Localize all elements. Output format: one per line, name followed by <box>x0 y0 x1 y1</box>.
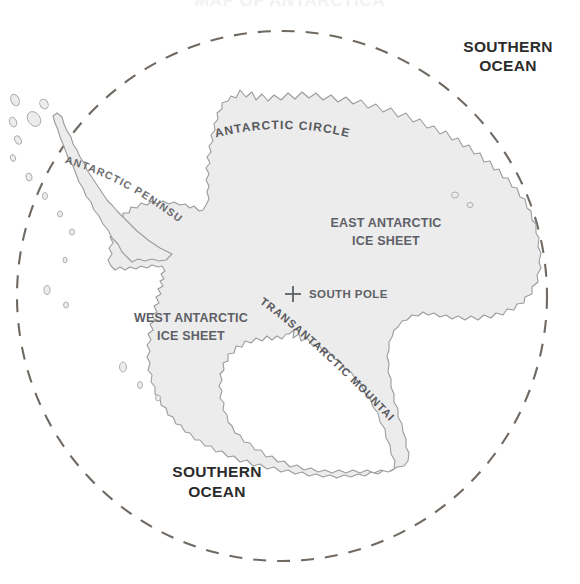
east-antarctic-ice-sheet-label: EAST ANTARCTIC <box>330 216 441 230</box>
east-antarctic-ice-sheet-label-line2: ICE SHEET <box>352 234 420 248</box>
south-pole-label: SOUTH POLE <box>309 288 388 300</box>
southern-ocean-label-top: SOUTHERN <box>463 38 552 55</box>
antarctica-map: MAP OF ANTARCTICA <box>0 0 580 584</box>
west-antarctic-ice-sheet-label: WEST ANTARCTIC <box>134 311 248 325</box>
southern-ocean-label-bottom-line2: OCEAN <box>188 483 245 500</box>
antarctica-landmass-group <box>8 90 541 478</box>
southern-ocean-label-bottom: SOUTHERN <box>172 463 261 480</box>
southern-ocean-label-top-line2: OCEAN <box>479 57 536 74</box>
map-title: MAP OF ANTARCTICA <box>195 0 385 10</box>
west-antarctic-ice-sheet-label-line2: ICE SHEET <box>157 329 225 343</box>
